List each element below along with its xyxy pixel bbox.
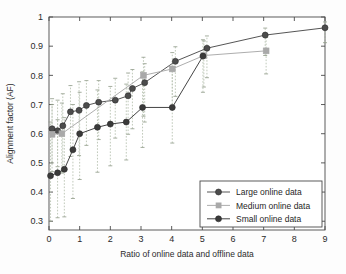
data-point-marker — [49, 131, 55, 137]
legend-label-3: Small online data — [236, 214, 301, 224]
data-point-marker — [67, 109, 73, 115]
data-point-marker — [262, 32, 268, 38]
legend-label-2: Medium online data — [236, 201, 310, 211]
x-axis-title: Ratio of online data and offline data — [120, 249, 254, 259]
data-point-marker — [322, 25, 328, 31]
y-axis-title: Alignment factor (AF) — [5, 83, 15, 163]
y-tick-label: 0.6 — [30, 129, 43, 139]
x-tick-label: 1 — [77, 234, 82, 244]
data-point-marker — [169, 66, 175, 72]
alignment-factor-chart: 01234567890.30.40.50.60.70.80.91Ratio of… — [0, 0, 346, 274]
legend-marker-3 — [216, 216, 222, 222]
data-point-marker — [141, 72, 147, 78]
y-tick-label: 0.8 — [30, 71, 43, 81]
data-point-marker — [140, 104, 146, 110]
y-tick-label: 0.7 — [30, 100, 43, 110]
data-point-marker — [60, 123, 66, 129]
x-tick-label: 7 — [261, 234, 266, 244]
legend-marker-2 — [216, 203, 222, 209]
legend-marker-1 — [216, 189, 222, 195]
data-point-marker — [112, 97, 118, 103]
figure-container: 01234567890.30.40.50.60.70.80.91Ratio of… — [0, 0, 346, 274]
data-point-marker — [263, 48, 269, 54]
data-point-marker — [204, 45, 210, 51]
data-point-marker — [49, 126, 55, 132]
data-point-marker — [107, 121, 113, 127]
y-tick-label: 0.3 — [30, 216, 43, 226]
data-point-marker — [142, 80, 148, 86]
data-point-marker — [96, 99, 102, 105]
x-tick-label: 3 — [138, 234, 143, 244]
x-tick-label: 9 — [322, 234, 327, 244]
data-point-marker — [200, 53, 206, 59]
data-point-marker — [76, 107, 82, 113]
data-point-marker — [172, 58, 178, 64]
x-tick-label: 4 — [169, 234, 174, 244]
data-point-marker — [129, 85, 135, 91]
data-point-marker — [123, 119, 129, 125]
x-tick-label: 0 — [46, 234, 51, 244]
x-tick-label: 2 — [108, 234, 113, 244]
y-tick-label: 0.9 — [30, 41, 43, 51]
data-point-marker — [48, 173, 54, 179]
x-tick-label: 5 — [200, 234, 205, 244]
x-tick-label: 6 — [230, 234, 235, 244]
y-tick-label: 0.4 — [30, 187, 43, 197]
y-tick-label: 1 — [38, 12, 43, 22]
y-tick-label: 0.5 — [30, 158, 43, 168]
legend: Large online dataMedium online dataSmall… — [200, 181, 322, 227]
x-tick-label: 8 — [292, 234, 297, 244]
data-point-marker — [169, 104, 175, 110]
data-point-marker — [125, 93, 131, 99]
data-point-marker — [77, 131, 83, 137]
data-point-marker — [59, 131, 65, 137]
legend-label-1: Large online data — [236, 187, 302, 197]
data-point-marker — [94, 124, 100, 130]
data-point-marker — [70, 147, 76, 153]
data-point-marker — [83, 102, 89, 108]
data-point-marker — [55, 170, 61, 176]
data-point-marker — [61, 166, 67, 172]
